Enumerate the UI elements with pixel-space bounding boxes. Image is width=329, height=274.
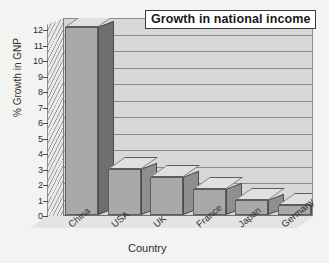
axis-left-wall — [47, 18, 64, 223]
y-tick-mark — [43, 92, 48, 93]
bar-uk — [150, 177, 183, 215]
y-tick-mark — [43, 170, 48, 171]
y-tick-mark — [43, 216, 48, 217]
y-tick-mark — [43, 61, 48, 62]
y-tick-label: 6 — [23, 119, 43, 128]
y-tick-label: 0 — [23, 212, 43, 221]
y-tick-mark — [43, 201, 48, 202]
y-tick-label: 10 — [23, 57, 43, 66]
y-tick-label: 12 — [23, 26, 43, 35]
plot-area — [63, 18, 313, 216]
y-axis-title: % Growth in GNP — [12, 18, 23, 138]
y-tick-label: 8 — [23, 88, 43, 97]
bar-china — [65, 27, 98, 215]
y-tick-mark — [43, 185, 48, 186]
y-tick-mark — [43, 139, 48, 140]
y-tick-mark — [43, 108, 48, 109]
y-tick-mark — [43, 123, 48, 124]
y-tick-mark — [43, 30, 48, 31]
bar-front-face — [150, 177, 183, 215]
y-tick-label: 2 — [23, 181, 43, 190]
y-tick-mark — [43, 46, 48, 47]
x-axis-title: Country — [128, 242, 167, 254]
bar-front-face — [65, 27, 98, 215]
y-tick-label: 5 — [23, 134, 43, 143]
y-tick-label: 3 — [23, 165, 43, 174]
chart-figure: 0123456789101112 % Growth in GNP ChinaUS… — [0, 0, 329, 274]
y-tick-label: 9 — [23, 72, 43, 81]
y-tick-label: 1 — [23, 196, 43, 205]
y-tick-label: 4 — [23, 150, 43, 159]
y-tick-mark — [43, 77, 48, 78]
y-tick-label: 7 — [23, 103, 43, 112]
y-tick-mark — [43, 154, 48, 155]
chart-title: Growth in national income — [145, 10, 316, 29]
y-tick-label: 11 — [23, 41, 43, 50]
